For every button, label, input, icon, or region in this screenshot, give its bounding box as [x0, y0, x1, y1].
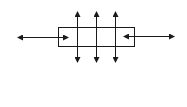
arrow-diagram [0, 0, 187, 107]
